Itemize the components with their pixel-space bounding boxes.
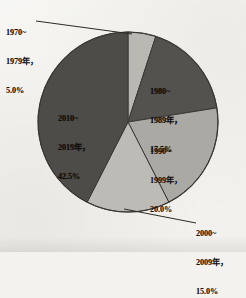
leader-line-1970-1979 <box>36 21 132 34</box>
pie-label-1970-1979-line2: 1979年， <box>6 57 38 67</box>
pie-label-1980-1989-line1: 1980~ <box>150 87 182 97</box>
pie-label-2000-2009: 2000~ 2009年， 15.0% <box>196 210 228 298</box>
pie-label-1990-1999-line1: 1990~ <box>150 147 182 157</box>
pie-label-2000-2009-line1: 2000~ <box>196 229 228 239</box>
pie-label-2010-2019-value: 42.5% <box>58 172 90 182</box>
pie-label-2010-2019-line2: 2019年， <box>58 143 90 153</box>
pie-label-1970-1979-value: 5.0% <box>6 86 38 96</box>
pie-label-1990-1999: 1990~ 1999年， 20.0% <box>150 128 182 234</box>
pie-label-1970-1979: 1970~ 1979年， 5.0% <box>6 9 38 115</box>
pie-label-1980-1989-line2: 1989年， <box>150 116 182 126</box>
pie-label-1990-1999-line2: 1999年， <box>150 176 182 186</box>
pie-label-1970-1979-line1: 1970~ <box>6 28 38 38</box>
pie-label-2010-2019: 2010~ 2019年， 42.5% <box>58 95 90 201</box>
pie-label-2000-2009-value: 15.0% <box>196 287 228 297</box>
pie-label-1990-1999-value: 20.0% <box>150 205 182 215</box>
pie-label-2010-2019-line1: 2010~ <box>58 114 90 124</box>
pie-label-2000-2009-line2: 2009年， <box>196 258 228 268</box>
